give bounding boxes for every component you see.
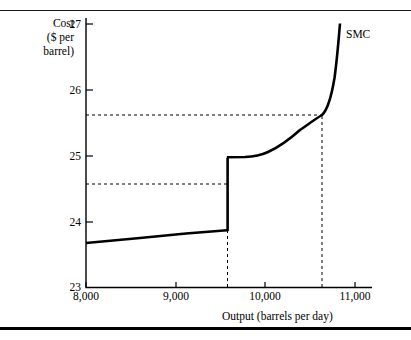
y-tick-label-24: 24	[70, 216, 82, 228]
x-tick-label-11000: 11,000	[339, 290, 370, 303]
chart-axes	[86, 18, 372, 288]
figure-container: 27 26 25 24 23 8,000 9,000 10,000 11,000…	[0, 0, 411, 340]
y-axis-title-line-3: barrel)	[43, 45, 74, 58]
x-tick-label-8000: 8,000	[73, 290, 99, 303]
y-axis-title: Cost ($ per barrel)	[43, 17, 74, 58]
y-axis-ticks	[86, 24, 93, 222]
x-axis-ticks	[86, 282, 355, 288]
x-axis-title: Output (barrels per day)	[222, 310, 333, 323]
series-label-smc: SMC	[346, 28, 371, 40]
x-tick-label-9000: 9,000	[163, 290, 189, 303]
y-tick-label-26: 26	[70, 84, 82, 96]
y-tick-label-25: 25	[70, 150, 82, 162]
x-tick-label-10000: 10,000	[249, 290, 281, 303]
y-axis-title-line-2: ($ per	[47, 31, 74, 44]
y-axis-title-line-1: Cost	[53, 17, 75, 29]
smc-curve-upper-branch	[227, 24, 340, 158]
smc-curve-lower-branch	[86, 230, 227, 243]
smc-chart: 27 26 25 24 23 8,000 9,000 10,000 11,000…	[0, 0, 411, 340]
